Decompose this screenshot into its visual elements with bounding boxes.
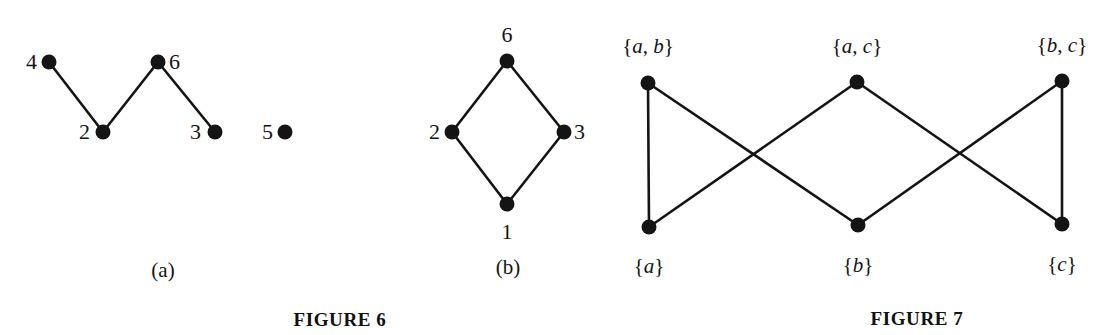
set-label-b: {b} [843, 255, 874, 276]
figure6-panel-b-vertices [445, 54, 572, 212]
vertex-5-isolated[interactable] [278, 125, 293, 140]
vertex-2-left[interactable] [445, 125, 460, 140]
edge-6-3[interactable] [507, 61, 564, 132]
vertex-3[interactable] [208, 125, 223, 140]
figure7-vertices [641, 74, 1070, 235]
figure7-edges [648, 81, 1062, 227]
edge-2-6[interactable] [103, 62, 158, 132]
panel-b-caption: (b) [496, 257, 521, 278]
edge-6-3[interactable] [158, 62, 215, 132]
vertex-label-2: 2 [79, 121, 90, 143]
set-label-bc: {b, c} [1037, 35, 1088, 56]
set-label-ab: {a, b} [622, 36, 674, 57]
vertex-2[interactable] [96, 125, 111, 140]
set-label-ac: {a, c} [832, 36, 883, 57]
vertex-4[interactable] [42, 55, 57, 70]
figure6-panel-b-graph [445, 54, 572, 212]
figure6-panel-b-edges [452, 61, 564, 204]
panel-a-caption: (a) [151, 260, 174, 281]
edge-2-1[interactable] [452, 132, 507, 204]
vertex-label-6-top: 6 [502, 24, 513, 46]
vertex-label-4: 4 [26, 51, 37, 73]
figure6-title: FIGURE 6 [294, 310, 387, 329]
vertex-set-ab[interactable] [641, 76, 656, 91]
vertex-label-3: 3 [190, 121, 201, 143]
vertex-set-ac[interactable] [850, 75, 865, 90]
vertex-set-c[interactable] [1055, 217, 1070, 232]
figure7-title: FIGURE 7 [871, 309, 964, 328]
figure-sheet: 4 2 6 3 5 6 2 3 1 {a, b} {a, c} {b, c} {… [0, 0, 1116, 335]
vertex-label-1-bottom: 1 [502, 221, 513, 243]
vertex-label-2-left: 2 [429, 121, 440, 143]
vertex-6-top[interactable] [500, 54, 515, 69]
edge-6-2[interactable] [452, 61, 507, 132]
edge-4-2[interactable] [49, 62, 103, 132]
vertex-label-6: 6 [169, 51, 180, 73]
set-label-c: {c} [1047, 254, 1077, 275]
edge-ab-a[interactable] [648, 83, 649, 227]
vertex-set-b[interactable] [851, 218, 866, 233]
vertex-set-bc[interactable] [1055, 74, 1070, 89]
set-label-a: {a} [634, 256, 665, 277]
vertex-set-a[interactable] [642, 220, 657, 235]
figure7-graph [641, 74, 1070, 235]
vertex-3-right[interactable] [557, 125, 572, 140]
vertex-label-3-right: 3 [574, 121, 585, 143]
graph-drawing-layer [0, 0, 1116, 335]
edge-3-1[interactable] [507, 132, 564, 204]
vertex-label-5: 5 [262, 121, 273, 143]
vertex-1-bottom[interactable] [500, 197, 515, 212]
vertex-6[interactable] [151, 55, 166, 70]
